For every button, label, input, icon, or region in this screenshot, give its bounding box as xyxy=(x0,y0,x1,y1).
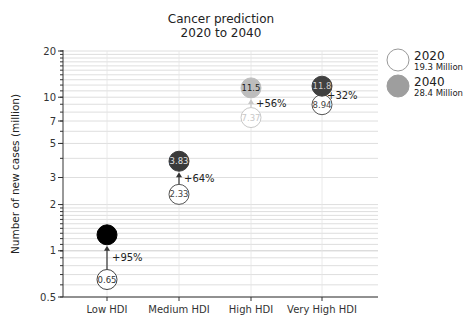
arrow-head-icon xyxy=(248,99,254,104)
arrow-head-icon xyxy=(176,172,182,177)
legend-year-2020: 2020 xyxy=(414,49,445,63)
point-2040-label: 1.27 xyxy=(98,230,117,240)
chart-title-line-2: 2020 to 2040 xyxy=(181,26,262,40)
x-tick-label: Low HDI xyxy=(86,304,127,315)
point-2040-label: 3.83 xyxy=(170,156,189,166)
legend: 2020 19.3 Million 2040 28.4 Million xyxy=(387,49,463,98)
legend-marker-2020 xyxy=(387,49,409,71)
chart: Cancer prediction 2020 to 2040 0.5123571… xyxy=(0,0,476,319)
y-tick-label: 7 xyxy=(50,116,56,127)
point-2020-label: 0.65 xyxy=(98,275,117,285)
legend-total-2020: 19.3 Million xyxy=(414,62,463,72)
legend-marker-2040 xyxy=(387,75,409,97)
growth-percent: +95% xyxy=(112,252,143,263)
point-2020-label: 7.37 xyxy=(242,113,261,123)
y-tick-label: 0.5 xyxy=(40,292,56,303)
y-tick-label: 10 xyxy=(43,92,56,103)
y-tick-label: 3 xyxy=(50,172,56,183)
y-tick-label: 20 xyxy=(43,46,56,57)
x-tick-label: High HDI xyxy=(229,304,273,315)
x-tick-label: Medium HDI xyxy=(148,304,209,315)
chart-title: Cancer prediction 2020 to 2040 xyxy=(168,12,274,40)
y-tick-label: 1 xyxy=(50,245,56,256)
legend-year-2040: 2040 xyxy=(414,75,445,89)
point-2020-label: 2.33 xyxy=(170,189,189,199)
growth-percent: +32% xyxy=(327,90,358,101)
arrow-head-icon xyxy=(104,246,110,251)
legend-total-2040: 28.4 Million xyxy=(414,88,463,98)
chart-title-line-1: Cancer prediction xyxy=(168,12,274,26)
x-tick-label: Very High HDI xyxy=(287,304,357,315)
growth-percent: +56% xyxy=(256,98,287,109)
point-2040-label: 11.5 xyxy=(242,83,261,93)
y-tick-label: 5 xyxy=(50,138,56,149)
y-axis-label: Number of new cases (million) xyxy=(9,94,21,254)
y-tick-label: 2 xyxy=(50,199,56,210)
growth-percent: +64% xyxy=(184,173,215,184)
